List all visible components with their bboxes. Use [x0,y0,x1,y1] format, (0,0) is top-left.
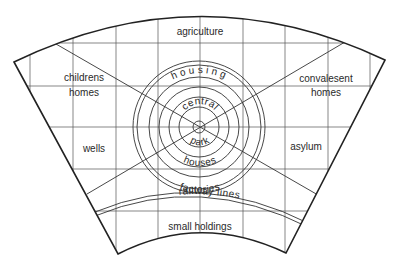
label-childrens-homes-2: homes [69,87,99,98]
label-wells: wells [82,143,105,154]
label-convalesent-homes-1: convalesent [299,73,353,84]
label-convalesent-homes-2: homes [311,87,341,98]
label-asylum: asylum [290,141,322,152]
label-railway-lines: railway lines [178,185,241,201]
label-small-holdings: small holdings [168,221,231,232]
label-childrens-homes-1: childrens [64,72,104,83]
label-agriculture: agriculture [177,26,224,37]
garden-city-diagram: agriculture childrens homes convalesent … [0,0,396,267]
